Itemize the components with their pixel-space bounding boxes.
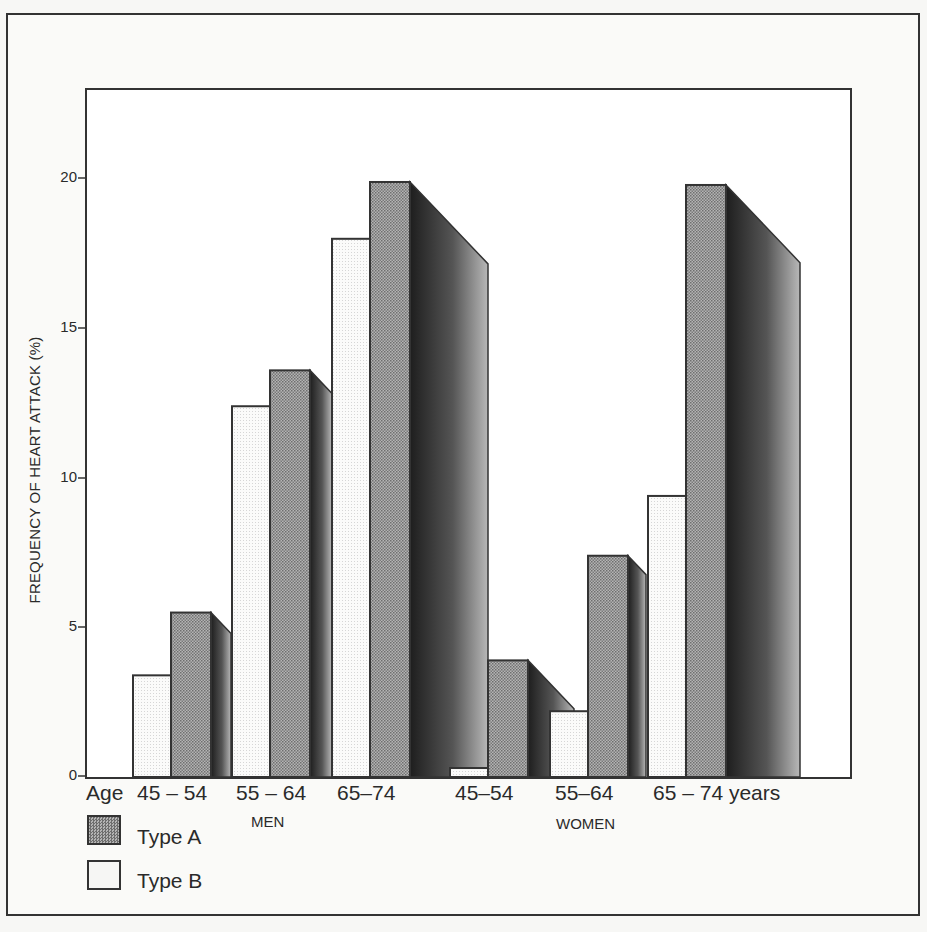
group-label-men: MEN [251, 813, 284, 830]
x-axis-prefix: Age [86, 781, 123, 805]
x-label-men-55-64: 55 – 64 [236, 781, 306, 805]
bar-type-a [488, 660, 528, 777]
legend-swatch-type-a [87, 815, 121, 845]
bar-type-a [686, 185, 726, 777]
bar-type-b [648, 496, 686, 777]
legend-label-type-a: Type A [137, 825, 201, 849]
bar-type-a [370, 182, 410, 777]
bar-shadow [628, 556, 646, 777]
group-label-women: WOMEN [556, 815, 615, 832]
legend-label-type-b: Type B [137, 869, 202, 893]
x-label-men-65-74: 65–74 [337, 781, 395, 805]
x-label-women-45-54: 45–54 [455, 781, 513, 805]
bar-shadow [211, 613, 231, 777]
bar-type-b [450, 768, 488, 777]
bar-type-b [232, 406, 270, 777]
x-label-men-45-54: 45 – 54 [137, 781, 207, 805]
x-label-women-55-64: 55–64 [555, 781, 613, 805]
x-label-women-65-74: 65 – 74 years [653, 781, 780, 805]
bar-shadow [726, 185, 800, 777]
legend-swatch-type-b [87, 860, 121, 890]
bar-shadow [310, 370, 332, 777]
bar-type-b [332, 239, 370, 777]
bar-type-b [550, 711, 588, 777]
bar-type-a [171, 613, 211, 777]
bar-type-a [588, 556, 628, 777]
bar-type-a [270, 370, 310, 777]
bar-shadow [410, 182, 488, 777]
bar-type-b [133, 675, 171, 777]
